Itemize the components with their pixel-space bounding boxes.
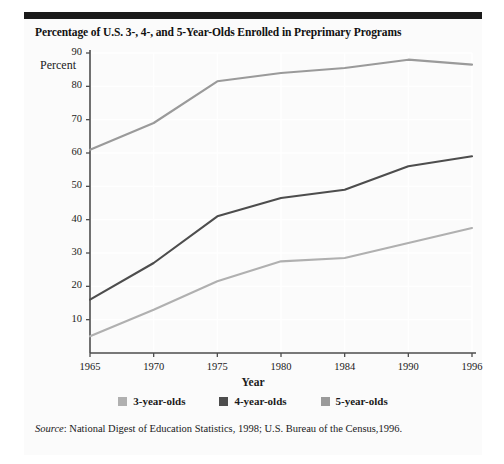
source-label: Source	[35, 423, 64, 434]
legend-item-4-year-olds[interactable]: 4-year-olds	[219, 395, 286, 407]
y-tick-label: 20	[56, 279, 82, 290]
y-tick-label: 90	[56, 46, 82, 57]
legend-item-3-year-olds[interactable]: 3-year-olds	[118, 395, 185, 407]
figure-panel: Percentage of U.S. 3-, 4-, and 5-Year-Ol…	[24, 12, 482, 455]
y-tick-label: 30	[56, 246, 82, 257]
legend-label: 3-year-olds	[133, 395, 185, 407]
y-tick-label: 10	[56, 313, 82, 324]
legend-label: 4-year-olds	[234, 395, 286, 407]
x-axis-title: Year	[24, 376, 482, 388]
legend-swatch-icon	[219, 397, 228, 406]
x-tick-label: 1980	[259, 361, 303, 372]
chart-legend: 3-year-olds4-year-olds5-year-olds	[24, 395, 482, 407]
x-tick-label: 1990	[386, 361, 430, 372]
legend-swatch-icon	[118, 397, 127, 406]
y-tick-label: 80	[56, 79, 82, 90]
chart-canvas	[24, 12, 482, 455]
y-tick-label: 70	[56, 113, 82, 124]
source-text: : National Digest of Education Statistic…	[64, 423, 402, 434]
y-tick-label: 40	[56, 213, 82, 224]
x-tick-label: 1965	[68, 361, 112, 372]
x-tick-label: 1975	[195, 361, 239, 372]
legend-label: 5-year-olds	[336, 395, 388, 407]
plot-area	[24, 12, 482, 455]
source-note: Source: National Digest of Education Sta…	[35, 423, 475, 434]
gridlines-group	[90, 53, 472, 353]
legend-item-5-year-olds[interactable]: 5-year-olds	[321, 395, 388, 407]
y-tick-label: 50	[56, 179, 82, 190]
x-tick-label: 1984	[323, 361, 367, 372]
x-tick-label: 1970	[132, 361, 176, 372]
x-tick-label: 1996	[450, 361, 494, 372]
y-tick-label: 60	[56, 146, 82, 157]
legend-swatch-icon	[321, 397, 330, 406]
